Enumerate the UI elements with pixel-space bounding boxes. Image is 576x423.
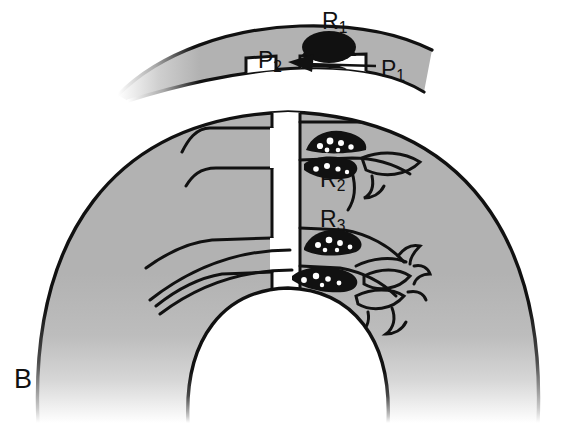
label-p1-subscript: 1 bbox=[396, 67, 405, 84]
label-r1-base: R bbox=[322, 8, 339, 34]
anatomical-diagram bbox=[0, 0, 576, 423]
label-r2-subscript: 2 bbox=[337, 177, 346, 194]
label-r2-base: R bbox=[320, 166, 337, 192]
label-p2: P2 bbox=[258, 47, 282, 74]
label-r1: R1 bbox=[322, 8, 347, 35]
main-dome-group bbox=[37, 112, 538, 423]
label-r3-base: R bbox=[320, 206, 337, 232]
label-p1: P1 bbox=[381, 56, 405, 83]
figure-panel-b: B R1 P2 P1 R2 R3 bbox=[0, 0, 576, 423]
label-r3-subscript: 3 bbox=[337, 217, 346, 234]
label-p2-subscript: 2 bbox=[273, 58, 282, 75]
label-p2-base: P bbox=[258, 47, 273, 73]
label-r2: R2 bbox=[320, 166, 345, 193]
label-p1-base: P bbox=[381, 56, 396, 82]
panel-letter-b: B bbox=[14, 364, 33, 395]
label-r1-subscript: 1 bbox=[339, 19, 348, 36]
label-r3: R3 bbox=[320, 206, 345, 233]
